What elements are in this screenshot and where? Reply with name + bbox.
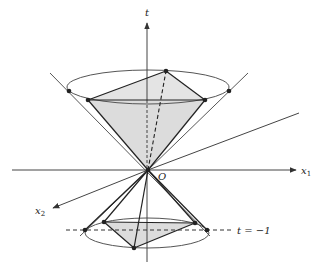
lower-left-vertex	[102, 220, 107, 225]
x1-label-sub: 1	[307, 170, 311, 178]
origin-point	[146, 168, 151, 173]
lower-ellipse-right-point	[205, 228, 210, 233]
x2-axis-label: x2	[35, 205, 45, 218]
upper-top-vertex	[164, 69, 169, 74]
upper-left-vertex	[86, 98, 91, 103]
lower-bottom-vertex	[132, 246, 137, 251]
t-axis-label: t	[145, 7, 150, 18]
upper-ellipse-left-point	[67, 89, 72, 94]
x2-label-sub: 2	[41, 210, 45, 218]
lower-right-vertex	[193, 221, 198, 226]
lower-ellipse-left-point	[83, 228, 88, 233]
x1-axis-label: x1	[301, 165, 311, 178]
light-cone-diagram: t O x1 x2 t = −1	[0, 0, 320, 275]
lower-shaded-region	[104, 222, 195, 248]
origin-label: O	[158, 171, 166, 182]
x2-axis	[53, 170, 148, 208]
slice-label: t = −1	[237, 225, 271, 236]
upper-right-vertex	[203, 98, 208, 103]
upper-ellipse-right-point	[227, 89, 232, 94]
